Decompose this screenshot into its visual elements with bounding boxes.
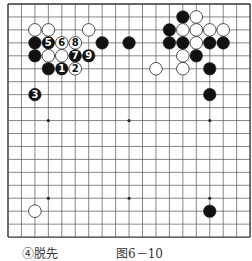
star-point: [208, 119, 211, 122]
move-number: 1: [58, 63, 65, 74]
black-stone: [217, 37, 230, 50]
move-note-caption: ④脱先: [22, 244, 58, 261]
move-number: 9: [85, 50, 92, 61]
white-stone: [203, 24, 216, 37]
star-point: [127, 119, 130, 122]
black-stone: [177, 37, 190, 50]
star-point: [47, 119, 50, 122]
move-number: 5: [45, 37, 52, 48]
star-point: [127, 197, 130, 200]
black-stone-move-7: 7: [69, 50, 82, 63]
white-stone: [29, 205, 42, 218]
black-stone: [163, 37, 176, 50]
black-stone: [190, 50, 203, 63]
white-stone-move-6: 6: [56, 37, 69, 50]
figure-label-caption: 图6－10: [116, 244, 163, 261]
black-stone: [163, 24, 176, 37]
go-board: 56879123: [0, 0, 252, 240]
white-stone: [190, 11, 203, 24]
black-stone: [203, 62, 216, 75]
star-point: [47, 197, 50, 200]
white-stone: [177, 50, 190, 63]
move-number: 8: [72, 37, 79, 48]
move-number: 3: [31, 89, 38, 100]
white-stone: [177, 24, 190, 37]
black-stone: [29, 50, 42, 63]
black-stone: [203, 88, 216, 101]
white-stone: [190, 37, 203, 50]
black-stone-move-9: 9: [82, 50, 95, 63]
white-stone: [150, 62, 163, 75]
black-stone-move-3: 3: [29, 88, 42, 101]
white-stone-move-8: 8: [69, 37, 82, 50]
black-stone: [177, 11, 190, 24]
black-stone: [29, 37, 42, 50]
move-number: 2: [72, 63, 79, 74]
white-stone: [42, 24, 55, 37]
black-stone-move-1: 1: [56, 62, 69, 75]
black-stone: [96, 37, 109, 50]
white-stone: [217, 24, 230, 37]
white-stone: [177, 62, 190, 75]
move-number: 6: [58, 37, 65, 48]
black-stone: [203, 205, 216, 218]
white-stone: [56, 50, 69, 63]
white-stone: [190, 24, 203, 37]
white-stone: [42, 50, 55, 63]
black-stone: [123, 37, 136, 50]
white-stone: [82, 24, 95, 37]
white-stone: [29, 24, 42, 37]
black-stone: [42, 62, 55, 75]
black-stone-move-5: 5: [42, 37, 55, 50]
move-number: 7: [72, 50, 79, 61]
star-point: [208, 197, 211, 200]
black-stone: [203, 37, 216, 50]
white-stone-move-2: 2: [69, 62, 82, 75]
